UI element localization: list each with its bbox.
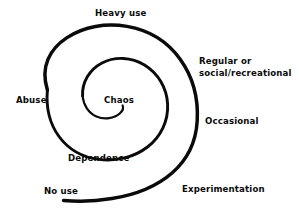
label-abuse: Abuse bbox=[16, 95, 47, 106]
label-no-use: No use bbox=[44, 186, 78, 197]
label-occasional: Occasional bbox=[205, 116, 259, 127]
label-regular-line-1: Regular or bbox=[199, 56, 251, 66]
label-experimentation: Experimentation bbox=[182, 184, 265, 195]
label-chaos: Chaos bbox=[104, 95, 134, 106]
label-heavy-use: Heavy use bbox=[95, 8, 146, 19]
spiral-second-turn-path bbox=[47, 58, 168, 160]
spiral-diagram: Heavy use Regular orsocial/recreational … bbox=[0, 0, 299, 219]
label-regular-social-recreational: Regular orsocial/recreational bbox=[199, 56, 292, 79]
label-dependence: Dependence bbox=[68, 153, 130, 164]
label-regular-line-2: social/recreational bbox=[199, 68, 292, 78]
